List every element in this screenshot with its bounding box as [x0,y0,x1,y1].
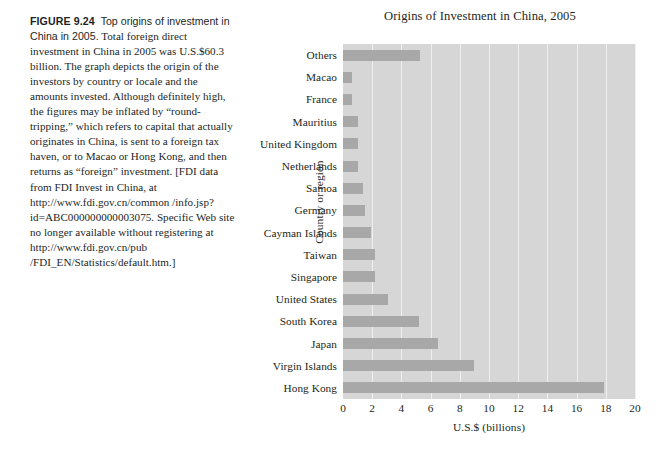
bar [343,338,438,349]
x-axis-tick-label: 12 [503,402,533,414]
bar [343,316,419,327]
y-axis-tick-label: United States [177,293,337,305]
bar [343,205,365,216]
gridline [460,44,461,399]
y-axis-tick-label: Taiwan [177,249,337,261]
bar [343,50,420,61]
x-axis-tick-label: 14 [532,402,562,414]
y-axis-tick-label: France [177,93,337,105]
bar-chart: Origins of Investment in China, 2005 Cou… [0,0,672,450]
y-axis-tick-label: Germany [177,204,337,216]
x-axis-title: U.S.$ (billions) [343,421,635,433]
x-axis-tick-label: 2 [357,402,387,414]
gridline [635,44,636,399]
y-axis-tick-labels: OthersMacaoFranceMauritiusUnited Kingdom… [263,44,337,399]
x-axis-tick-label: 20 [620,402,650,414]
y-axis-tick-label: Singapore [177,271,337,283]
bar [343,94,352,105]
y-axis-tick-label: Macao [177,71,337,83]
y-axis-tick-label: Hong Kong [177,382,337,394]
gridline [577,44,578,399]
bar [343,360,474,371]
y-axis-tick-label: United Kingdom [177,138,337,150]
x-axis-tick-label: 6 [416,402,446,414]
bar [343,161,358,172]
bar [343,382,604,393]
bar [343,294,388,305]
y-axis-tick-label: Samoa [177,182,337,194]
y-axis-tick-label: South Korea [177,315,337,327]
y-axis-tick-label: Mauritius [177,116,337,128]
gridline [547,44,548,399]
bar [343,183,363,194]
y-axis-tick-label: Netherlands [177,160,337,172]
x-axis-tick-label: 4 [386,402,416,414]
bar [343,271,375,282]
y-axis-tick-label: Cayman Islands [177,227,337,239]
chart-title: Origins of Investment in China, 2005 [290,9,670,24]
y-axis-tick-label: Virgin Islands [177,360,337,372]
bar [343,138,358,149]
bar [343,116,358,127]
figure-page: FIGURE 9.24 Top origins of investment in… [0,0,672,450]
gridline [518,44,519,399]
gridline [489,44,490,399]
y-axis-tick-label: Others [177,49,337,61]
x-axis-tick-label: 0 [328,402,358,414]
x-axis-tick-label: 8 [445,402,475,414]
plot-area [343,44,635,399]
x-axis-tick-labels: 02468101214161820 [343,402,635,418]
bar [343,227,371,238]
x-axis-tick-label: 18 [591,402,621,414]
gridline [606,44,607,399]
x-axis-tick-label: 10 [474,402,504,414]
x-axis-tick-label: 16 [562,402,592,414]
bar [343,249,375,260]
bar [343,72,352,83]
y-axis-tick-label: Japan [177,338,337,350]
